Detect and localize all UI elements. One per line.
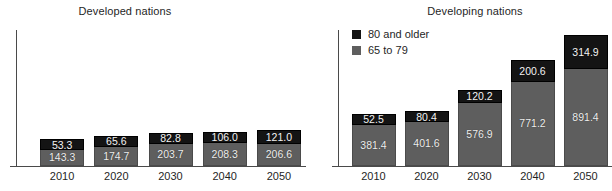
chart-title-developing: Developing nations bbox=[322, 5, 612, 17]
bar-segment-80-and-older: 65.6 bbox=[94, 136, 138, 147]
bar-value-65-to-79: 203.7 bbox=[157, 149, 183, 160]
bar-value-65-to-79: 143.3 bbox=[49, 152, 75, 163]
bar-value-65-to-79: 576.9 bbox=[466, 129, 492, 140]
bar-value-65-to-79: 771.2 bbox=[519, 118, 545, 129]
bar-segment-65-to-79: 891.4 bbox=[564, 69, 608, 166]
bar-value-80-and-older: 200.6 bbox=[519, 66, 545, 77]
bar-segment-80-and-older: 82.8 bbox=[149, 133, 193, 144]
bar-segment-65-to-79: 143.3 bbox=[40, 150, 84, 166]
x-tick-2020: 2020 bbox=[94, 170, 138, 182]
bar-value-80-and-older: 82.8 bbox=[160, 133, 180, 144]
bar-value-80-and-older: 52.5 bbox=[363, 114, 383, 125]
figure-population-by-age: Developed nations 53.3143.365.6174.782.8… bbox=[0, 0, 612, 191]
bar-2020: 80.4401.6 bbox=[405, 111, 449, 166]
bar-2030: 82.8203.7 bbox=[149, 133, 193, 166]
bar-segment-65-to-79: 401.6 bbox=[405, 122, 449, 166]
bar-segment-65-to-79: 206.6 bbox=[257, 144, 301, 166]
bar-segment-80-and-older: 314.9 bbox=[564, 35, 608, 69]
x-tick-2050: 2050 bbox=[564, 170, 608, 182]
legend-swatch-icon-gray bbox=[352, 46, 361, 55]
bar-segment-80-and-older: 120.2 bbox=[458, 90, 502, 103]
bar-segment-80-and-older: 200.6 bbox=[511, 60, 555, 82]
plot-area-developed: 53.3143.365.6174.782.8203.7106.0208.3121… bbox=[17, 30, 306, 166]
bar-value-65-to-79: 174.7 bbox=[103, 151, 129, 162]
legend-item-65-to-79: 65 to 79 bbox=[352, 45, 429, 56]
bar-value-80-and-older: 121.0 bbox=[266, 132, 292, 143]
bar-value-65-to-79: 401.6 bbox=[413, 138, 439, 149]
bar-value-65-to-79: 381.4 bbox=[360, 140, 386, 151]
legend-label-65-to-79: 65 to 79 bbox=[368, 45, 408, 56]
legend-label-80-and-older: 80 and older bbox=[368, 29, 429, 40]
bar-segment-65-to-79: 771.2 bbox=[511, 82, 555, 166]
chart-panel-developed: Developed nations 53.3143.365.6174.782.8… bbox=[0, 0, 306, 191]
bar-2040: 200.6771.2 bbox=[511, 60, 555, 166]
x-tick-2030: 2030 bbox=[458, 170, 502, 182]
bar-segment-65-to-79: 203.7 bbox=[149, 144, 193, 166]
bar-segment-80-and-older: 80.4 bbox=[405, 111, 449, 122]
x-axis-line-developed bbox=[10, 166, 306, 167]
bar-segment-80-and-older: 53.3 bbox=[40, 139, 84, 150]
bar-value-80-and-older: 65.6 bbox=[106, 136, 126, 147]
bar-value-65-to-79: 891.4 bbox=[572, 112, 598, 123]
x-tick-2020: 2020 bbox=[405, 170, 449, 182]
bar-2050: 121.0206.6 bbox=[257, 130, 301, 166]
chart-title-developed: Developed nations bbox=[0, 5, 278, 17]
bar-2020: 65.6174.7 bbox=[94, 136, 138, 166]
legend-item-80-and-older: 80 and older bbox=[352, 29, 429, 40]
x-tick-2040: 2040 bbox=[511, 170, 555, 182]
x-tick-2010: 2010 bbox=[40, 170, 84, 182]
x-tick-2030: 2030 bbox=[149, 170, 193, 182]
x-tick-2010: 2010 bbox=[352, 170, 396, 182]
bar-segment-65-to-79: 208.3 bbox=[203, 143, 247, 166]
bar-2040: 106.0208.3 bbox=[203, 132, 247, 166]
bar-value-80-and-older: 314.9 bbox=[572, 47, 598, 58]
bar-value-80-and-older: 53.3 bbox=[52, 140, 72, 151]
bar-value-65-to-79: 206.6 bbox=[266, 149, 292, 160]
chart-legend: 80 and older 65 to 79 bbox=[352, 29, 429, 56]
bar-value-65-to-79: 208.3 bbox=[212, 149, 238, 160]
bar-segment-65-to-79: 381.4 bbox=[352, 125, 396, 166]
x-tick-2040: 2040 bbox=[203, 170, 247, 182]
bar-value-80-and-older: 80.4 bbox=[416, 112, 436, 123]
bar-2050: 314.9891.4 bbox=[564, 35, 608, 166]
bar-value-80-and-older: 120.2 bbox=[466, 91, 492, 102]
bar-2010: 52.5381.4 bbox=[352, 114, 396, 166]
x-tick-2050: 2050 bbox=[257, 170, 301, 182]
bar-2030: 120.2576.9 bbox=[458, 90, 502, 166]
bar-segment-80-and-older: 106.0 bbox=[203, 132, 247, 144]
bar-segment-80-and-older: 121.0 bbox=[257, 130, 301, 143]
legend-swatch-icon-dark bbox=[352, 30, 361, 39]
bar-segment-80-and-older: 52.5 bbox=[352, 114, 396, 125]
bar-segment-65-to-79: 576.9 bbox=[458, 103, 502, 166]
bar-2010: 53.3143.3 bbox=[40, 139, 84, 166]
bar-value-80-and-older: 106.0 bbox=[212, 132, 238, 143]
x-axis-line-developing bbox=[332, 166, 612, 167]
bar-segment-65-to-79: 174.7 bbox=[94, 147, 138, 166]
